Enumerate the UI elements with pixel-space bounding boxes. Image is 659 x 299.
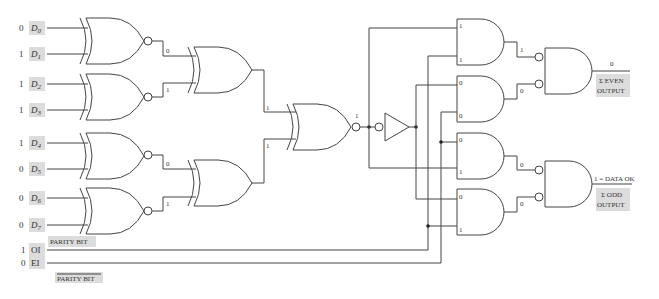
input-d0: 0 D0	[19, 21, 88, 35]
svg-text:0: 0	[166, 160, 170, 168]
input-d1: 1 D1	[19, 47, 88, 61]
input-value: 0	[19, 23, 24, 33]
svg-text:PARITY BIT: PARITY BIT	[57, 275, 95, 283]
svg-text:1: 1	[459, 168, 463, 176]
xnor-gate-4	[80, 188, 152, 234]
svg-text:0: 0	[610, 60, 614, 68]
svg-text:1: 1	[266, 142, 270, 150]
svg-text:1: 1	[166, 200, 170, 208]
svg-text:0: 0	[21, 258, 26, 268]
xor-gate-6	[188, 160, 252, 206]
xnor-gate-1	[80, 18, 152, 64]
svg-text:1: 1	[459, 226, 463, 234]
svg-text:Σ ODD: Σ ODD	[601, 191, 622, 199]
svg-text:Σ EVEN: Σ EVEN	[599, 77, 624, 85]
svg-text:OI: OI	[31, 245, 41, 255]
even-output-gate	[535, 48, 592, 94]
svg-text:EI: EI	[31, 258, 40, 268]
svg-text:1: 1	[19, 138, 24, 148]
svg-text:1: 1	[266, 104, 270, 112]
svg-text:0: 0	[19, 164, 24, 174]
svg-text:1: 1	[19, 105, 24, 115]
svg-text:1: 1	[355, 112, 359, 120]
svg-text:PARITY BIT: PARITY BIT	[50, 238, 88, 246]
parity-bit-bar-caption: PARITY BIT	[55, 272, 103, 283]
svg-text:0: 0	[459, 112, 463, 120]
input-d7: 0 D7	[19, 218, 88, 232]
svg-text:0: 0	[19, 193, 24, 203]
svg-text:0: 0	[19, 220, 24, 230]
xnor-gate-3	[80, 133, 152, 179]
svg-text:0: 0	[520, 87, 524, 95]
svg-text:1: 1	[459, 56, 463, 64]
svg-text:1: 1	[19, 49, 24, 59]
svg-text:0: 0	[520, 161, 524, 169]
svg-text:1 = DATA OK: 1 = DATA OK	[594, 175, 635, 183]
and-gate-4: 0 1	[457, 189, 504, 235]
xor-gate-5	[188, 47, 252, 93]
even-output-label: Σ EVEN OUTPUT	[596, 74, 630, 97]
svg-text:1: 1	[166, 86, 170, 94]
and-gate-1: 1 1	[457, 19, 504, 65]
svg-text:0: 0	[166, 47, 170, 55]
and-gate-3: 0 1	[457, 133, 504, 179]
odd-output-gate	[535, 161, 592, 207]
svg-text:OUTPUT: OUTPUT	[597, 201, 625, 209]
svg-text:0: 0	[459, 193, 463, 201]
buffer-inverter	[385, 113, 409, 141]
input-d2: 1 D2	[19, 77, 88, 91]
svg-text:1: 1	[520, 46, 524, 54]
xnor-gate-7	[287, 104, 360, 150]
parity-circuit-diagram: 0 D0 1 D1 1 D2 1 D3 1 D4 0 D5 0 D6	[0, 0, 659, 299]
xnor-gate-2	[80, 74, 152, 120]
svg-text:0: 0	[520, 200, 524, 208]
input-d5: 0 D5	[19, 162, 88, 176]
parity-bit-caption: PARITY BIT	[48, 236, 96, 247]
svg-text:1: 1	[21, 245, 26, 255]
input-d3: 1 D3	[19, 103, 88, 117]
svg-text:1: 1	[459, 22, 463, 30]
input-d6: 0 D6	[19, 191, 88, 205]
svg-text:0: 0	[459, 79, 463, 87]
and-gate-2: 0 0	[457, 76, 504, 122]
svg-text:1: 1	[19, 79, 24, 89]
input-d4: 1 D4	[19, 136, 88, 150]
svg-text:0: 0	[459, 136, 463, 144]
odd-output-label: Σ ODD OUTPUT	[596, 188, 630, 211]
svg-text:OUTPUT: OUTPUT	[597, 87, 625, 95]
